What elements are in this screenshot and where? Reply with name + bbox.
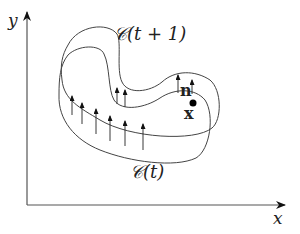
- point-label: x: [184, 106, 194, 122]
- x-axis-label: x: [273, 210, 283, 227]
- normal-label: n: [180, 83, 192, 99]
- curve-t-plus-1-label: 𝒞(t + 1): [114, 25, 186, 43]
- diagram-canvas: y x 𝒞(t + 1) 𝒞(t) n x: [0, 0, 300, 234]
- curve-t-label: 𝒞(t): [130, 163, 164, 181]
- y-axis-label: y: [8, 12, 18, 29]
- normal-arrows: [72, 75, 192, 150]
